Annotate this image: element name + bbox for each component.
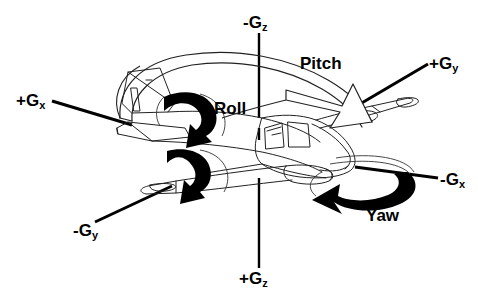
rotation-label-pitch: Pitch [300, 55, 342, 72]
aircraft-axes-diagram: -Gz +Gz +Gx -Gx +Gy -Gy Roll Pitch Yaw [0, 0, 478, 298]
aircraft-outline [117, 68, 418, 194]
yaw-rotation-arrow [310, 156, 415, 214]
axis-label-neg-gx: -Gx [440, 171, 465, 188]
rotation-label-yaw: Yaw [366, 207, 399, 224]
diagram-canvas [0, 0, 478, 298]
axis-label-pos-gx: +Gx [16, 92, 45, 109]
axis-label-neg-gy: -Gy [73, 222, 98, 239]
leader-line-pos-gy [360, 64, 428, 104]
rotation-label-roll: Roll [214, 100, 246, 117]
axis-label-neg-gz: -Gz [243, 14, 267, 31]
axis-label-pos-gz: +Gz [239, 270, 268, 287]
axis-label-pos-gy: +Gy [429, 55, 458, 72]
pitch-arrow-head [286, 84, 372, 128]
